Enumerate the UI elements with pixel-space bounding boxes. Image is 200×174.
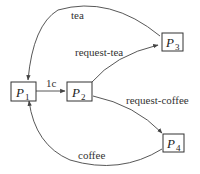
edge-label-request-coffee: request-coffee [126, 94, 189, 106]
svg-text:4: 4 [176, 143, 181, 153]
svg-text:2: 2 [81, 92, 86, 102]
svg-text:P: P [166, 136, 175, 151]
svg-text:3: 3 [175, 42, 180, 52]
svg-text:P: P [15, 85, 24, 100]
edge-label-1c: 1c [46, 77, 57, 89]
edge-label-tea: tea [71, 9, 84, 21]
svg-text:P: P [71, 85, 80, 100]
state-diagram: 1c request-tea request-coffee tea coffee… [0, 0, 200, 174]
node-p1: P 1 [11, 82, 36, 102]
edge-label-request-tea: request-tea [75, 46, 123, 58]
node-p3: P 3 [162, 33, 183, 52]
node-p2: P 2 [67, 82, 92, 102]
node-p4: P 4 [163, 134, 184, 153]
edge-p3-p1 [28, 6, 160, 80]
svg-text:P: P [165, 35, 174, 50]
edge-label-coffee: coffee [78, 149, 105, 161]
svg-text:1: 1 [25, 92, 30, 102]
